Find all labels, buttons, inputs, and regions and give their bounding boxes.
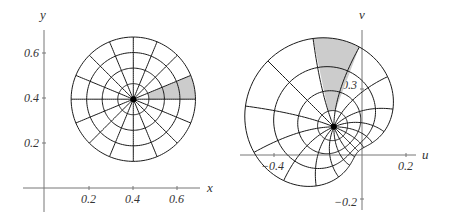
ray <box>89 55 133 99</box>
x-tick-label: 0.2 <box>81 192 96 206</box>
x-axis-label: x <box>206 180 213 195</box>
ray <box>133 99 177 143</box>
y-axis-label: y <box>38 7 46 22</box>
y-tick-label: 0.2 <box>24 136 39 150</box>
ray <box>89 99 133 143</box>
v-tick-label: −0.2 <box>334 195 357 209</box>
w-plane-plot: u v −0.4 0.2 0.3 −0.2 <box>240 7 429 210</box>
x-tick-label: 0.4 <box>125 192 140 206</box>
v-axis-label: v <box>359 7 365 22</box>
ray <box>254 127 334 153</box>
u-tick-label: 0.2 <box>398 159 413 173</box>
center-dot <box>331 124 337 130</box>
y-tick-label: 0.6 <box>24 46 39 60</box>
x-tick-label: 0.6 <box>169 192 184 206</box>
z-plane-plot: x y 0.2 0.4 0.6 0.6 0.4 0.2 <box>23 7 213 212</box>
y-tick-label: 0.4 <box>24 91 39 105</box>
shaded-sector <box>148 75 196 99</box>
center-dot <box>130 96 136 102</box>
disk-grid <box>71 37 195 161</box>
u-axis-label: u <box>422 147 429 162</box>
figure: x y 0.2 0.4 0.6 0.6 0.4 0.2 u v −0.4 0.2… <box>0 0 451 218</box>
